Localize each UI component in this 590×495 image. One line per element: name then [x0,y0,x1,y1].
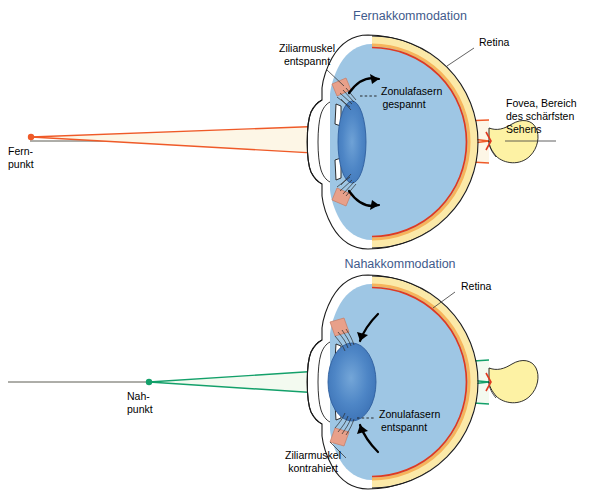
near-point-marker [146,379,152,385]
label-far-point-line1: Fern- [8,145,34,157]
far-point-marker [28,134,34,140]
label-ciliary-far-line2: entspannt [284,55,330,67]
panel-far-title: Fernakkommodation [353,9,467,23]
label-zonular-far-line2: gespannt [382,98,425,110]
figure-background [0,0,590,495]
label-near-point-line1: Nah- [127,390,150,402]
panel-near-title: Nahakkommodation [344,257,455,271]
label-ciliary-far-line1: Ziliarmuskel [279,42,335,54]
label-zonular-near-line2: entspannt [381,421,427,433]
accommodation-diagram: Fernakkommodation [0,0,590,495]
label-far-point-line2: punkt [8,158,34,170]
label-fovea-line3: Sehens [506,123,542,135]
label-retina-near: Retina [461,280,492,292]
lens-near [328,343,376,421]
label-retina-far: Retina [479,36,510,48]
label-near-point-line2: punkt [127,403,153,415]
label-near-point: Nah- punkt [127,390,153,415]
label-far-point: Fern- punkt [8,145,34,170]
label-zonular-far-line1: Zonulafasern [381,85,442,97]
label-zonular-near-line1: Zonulafasern [379,408,440,420]
lens-far [338,101,366,183]
label-fovea-line2: des schärfsten [506,110,574,122]
label-ciliary-muscle-far: Ziliarmuskel entspannt [279,42,335,67]
label-ciliary-near-line2: kontrahiert [288,462,338,474]
label-ciliary-near-line1: Ziliarmuskel [285,449,341,461]
label-ciliary-muscle-near: Ziliarmuskel kontrahiert [285,449,341,474]
label-fovea-line1: Fovea, Bereich [506,97,577,109]
